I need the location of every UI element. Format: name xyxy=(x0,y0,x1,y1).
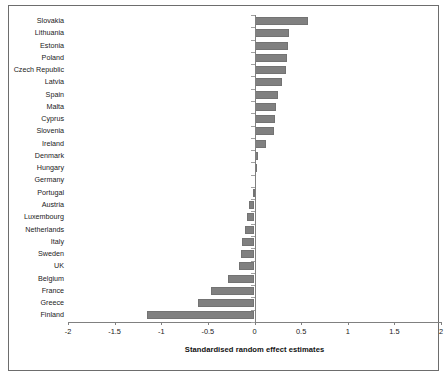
category-tick xyxy=(251,52,255,53)
category-label: Estonia xyxy=(12,40,64,52)
category-label: Luxembourg xyxy=(12,211,64,223)
bar xyxy=(255,42,289,50)
bar xyxy=(255,29,290,37)
chart-figure: SlovakiaLithuaniaEstoniaPolandCzech Repu… xyxy=(0,0,448,385)
category-tick xyxy=(251,40,255,41)
category-tick xyxy=(251,138,255,139)
x-tick-mark xyxy=(441,322,442,325)
category-tick xyxy=(251,310,255,311)
category-label: Czech Republic xyxy=(12,64,64,76)
x-tick-mark xyxy=(115,322,116,325)
category-label: Belgium xyxy=(12,273,64,285)
zero-axis-line xyxy=(255,15,256,322)
category-tick xyxy=(251,297,255,298)
x-tick-mark xyxy=(255,322,256,325)
bar xyxy=(147,311,254,319)
category-tick xyxy=(251,15,255,16)
category-label: Hungary xyxy=(12,162,64,174)
category-tick xyxy=(251,89,255,90)
category-label: Italy xyxy=(12,236,64,248)
category-label: Cyprus xyxy=(12,113,64,125)
category-label: Spain xyxy=(12,89,64,101)
bar xyxy=(247,213,254,221)
x-tick-mark xyxy=(301,322,302,325)
category-label: France xyxy=(12,285,64,297)
bar xyxy=(198,299,255,307)
x-tick-label: 0.5 xyxy=(283,327,319,336)
category-tick xyxy=(251,211,255,212)
category-label: Poland xyxy=(12,52,64,64)
category-label: Slovakia xyxy=(12,15,64,27)
x-tick-mark xyxy=(161,322,162,325)
category-label: Denmark xyxy=(12,150,64,162)
x-tick-label: -1.5 xyxy=(97,327,133,336)
category-tick xyxy=(251,248,255,249)
x-tick-mark xyxy=(348,322,349,325)
category-label: Austria xyxy=(12,199,64,211)
bar xyxy=(255,66,287,74)
category-label: Malta xyxy=(12,101,64,113)
x-axis-title: Standardised random effect estimates xyxy=(68,345,441,354)
category-label: Ireland xyxy=(12,138,64,150)
bar xyxy=(241,250,255,258)
category-tick xyxy=(251,285,255,286)
bar xyxy=(255,91,278,99)
x-tick-label: 0 xyxy=(237,327,273,336)
x-tick-label: -1 xyxy=(143,327,179,336)
bar xyxy=(242,238,254,246)
x-tick-mark xyxy=(394,322,395,325)
bar xyxy=(255,54,288,62)
category-tick xyxy=(251,273,255,274)
category-label: Netherlands xyxy=(12,224,64,236)
bar xyxy=(255,115,276,123)
x-tick-mark xyxy=(68,322,69,325)
bar xyxy=(255,17,308,25)
bar xyxy=(255,103,276,111)
category-tick xyxy=(251,199,255,200)
category-label: UK xyxy=(12,260,64,272)
category-tick xyxy=(251,224,255,225)
x-tick-label: 2 xyxy=(423,327,448,336)
category-tick xyxy=(251,150,255,151)
category-label: Sweden xyxy=(12,248,64,260)
category-tick xyxy=(251,126,255,127)
category-label: Germany xyxy=(12,174,64,186)
category-axis-labels: SlovakiaLithuaniaEstoniaPolandCzech Repu… xyxy=(12,15,64,322)
category-tick xyxy=(251,162,255,163)
bar xyxy=(211,287,255,295)
category-tick xyxy=(251,64,255,65)
category-tick xyxy=(251,27,255,28)
x-tick-label: 1.5 xyxy=(376,327,412,336)
x-tick-label: -2 xyxy=(50,327,86,336)
category-tick xyxy=(251,101,255,102)
bar xyxy=(255,127,275,135)
x-tick-label: -0.5 xyxy=(190,327,226,336)
bar xyxy=(228,275,254,283)
category-tick xyxy=(251,322,255,323)
category-label: Portugal xyxy=(12,187,64,199)
category-label: Lithuania xyxy=(12,27,64,39)
category-label: Latvia xyxy=(12,76,64,88)
x-tick-mark xyxy=(208,322,209,325)
category-tick xyxy=(251,236,255,237)
category-tick xyxy=(251,187,255,188)
bar xyxy=(255,78,282,86)
category-label: Greece xyxy=(12,297,64,309)
bar xyxy=(245,226,254,234)
x-tick-label: 1 xyxy=(330,327,366,336)
category-tick xyxy=(251,113,255,114)
category-tick xyxy=(251,261,255,262)
bar xyxy=(255,140,266,148)
bar xyxy=(239,262,255,270)
category-tick xyxy=(251,76,255,77)
category-tick xyxy=(251,175,255,176)
category-label: Finland xyxy=(12,309,64,321)
category-label: Slovenia xyxy=(12,125,64,137)
